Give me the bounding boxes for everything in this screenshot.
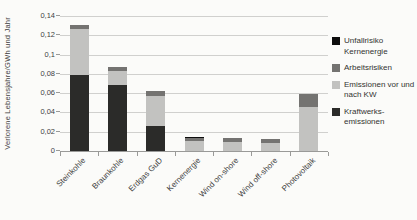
bar-segment	[185, 138, 204, 142]
gridline	[60, 16, 328, 17]
bar-segment	[261, 143, 280, 151]
bar-segment	[146, 126, 165, 151]
x-tick-mark	[175, 152, 176, 156]
legend-label: Unfallrisiko Kernenergie	[344, 36, 415, 57]
chart-legend: Unfallrisiko KernenergieArbeitsrisikenEm…	[332, 36, 415, 134]
gridline	[60, 112, 328, 113]
y-tick-label: 0,14	[0, 12, 55, 20]
legend-label: Arbeitsrisiken	[344, 63, 392, 74]
y-tick-mark	[56, 54, 60, 55]
bar-segment	[223, 142, 242, 151]
y-tick-mark	[56, 150, 60, 151]
y-tick-mark	[56, 15, 60, 16]
bar-segment	[70, 75, 89, 151]
y-tick-mark	[56, 34, 60, 35]
bar-segment	[108, 67, 127, 71]
bar-segment	[108, 85, 127, 151]
x-tick-mark	[137, 152, 138, 156]
y-axis-tick-labels: 00,020,040,060,080,10,120,14	[0, 16, 55, 151]
bar-segment	[146, 96, 165, 126]
y-tick-mark	[56, 111, 60, 112]
x-tick-mark	[98, 152, 99, 156]
bar-segment	[108, 71, 127, 85]
legend-item: Unfallrisiko Kernenergie	[332, 36, 415, 57]
gridline	[60, 35, 328, 36]
x-tick-mark	[290, 152, 291, 156]
bar-segment	[299, 107, 318, 151]
bar-segment	[223, 138, 242, 143]
y-tick-label: 0,06	[0, 89, 55, 97]
legend-label: Kraftwerks-emissionen	[344, 107, 415, 128]
legend-label: Emissionen vor und nach KW	[344, 80, 415, 101]
x-tick-mark	[328, 152, 329, 156]
bar-segment	[70, 29, 89, 75]
y-tick-label: 0,1	[0, 51, 55, 59]
legend-swatch-icon	[332, 108, 340, 116]
x-tick-mark	[60, 152, 61, 156]
bar-segment	[185, 137, 204, 138]
gridline	[60, 74, 328, 75]
bar-segment	[146, 91, 165, 96]
x-category-label: Steinkohle	[30, 156, 87, 213]
gridline	[60, 132, 328, 133]
x-category-label: Wind on-shore	[183, 156, 240, 213]
x-tick-mark	[251, 152, 252, 156]
gridline	[60, 55, 328, 56]
legend-swatch-icon	[332, 37, 340, 45]
x-category-label: Kernenergie	[145, 156, 202, 213]
y-tick-label: 0	[0, 147, 55, 155]
y-tick-mark	[56, 92, 60, 93]
bar-segment	[185, 141, 204, 151]
y-tick-label: 0,12	[0, 31, 55, 39]
legend-item: Emissionen vor und nach KW	[332, 80, 415, 101]
y-tick-label: 0,04	[0, 108, 55, 116]
bar-segment	[299, 94, 318, 107]
x-category-label: Braunkohle	[69, 156, 126, 213]
stacked-bar-chart-figure: Verlorene Lebensjahre/GWh und Jahr 00,02…	[0, 0, 417, 220]
legend-item: Arbeitsrisiken	[332, 63, 415, 74]
y-tick-label: 0,02	[0, 128, 55, 136]
x-tick-mark	[213, 152, 214, 156]
legend-item: Kraftwerks-emissionen	[332, 107, 415, 128]
legend-swatch-icon	[332, 64, 340, 72]
x-category-label: Photovoltaik	[260, 156, 317, 213]
legend-swatch-icon	[332, 81, 340, 89]
plot-area	[60, 16, 328, 152]
y-tick-label: 0,08	[0, 70, 55, 78]
y-tick-mark	[56, 131, 60, 132]
gridline	[60, 93, 328, 94]
x-category-label: Erdgas GuD	[107, 156, 164, 213]
bar-segment	[261, 139, 280, 143]
bar-segment	[70, 25, 89, 29]
y-tick-mark	[56, 73, 60, 74]
x-category-label: Wind off-shore	[222, 156, 279, 213]
